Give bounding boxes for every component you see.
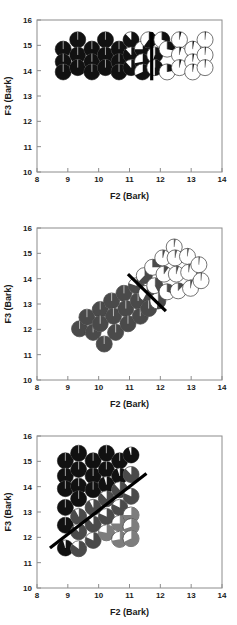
y-tick-label: 15 bbox=[23, 457, 32, 466]
x-tick-label: 12 bbox=[156, 175, 165, 184]
scatter-panel-2: 89101112131410111213141516F2 (Bark)F3 (B… bbox=[0, 208, 237, 416]
y-tick-label: 12 bbox=[23, 117, 32, 126]
x-tick-label: 11 bbox=[125, 175, 134, 184]
marker-layer bbox=[55, 32, 213, 80]
y-tick-label: 11 bbox=[24, 143, 33, 152]
x-tick-label: 13 bbox=[187, 383, 196, 392]
data-point-marker bbox=[96, 336, 112, 352]
data-point-marker bbox=[70, 60, 86, 76]
x-tick-label: 14 bbox=[218, 591, 227, 600]
data-point-marker bbox=[71, 445, 87, 461]
data-point-marker bbox=[123, 531, 139, 547]
y-axis-label: F3 (Bark) bbox=[3, 284, 13, 323]
x-tick-label: 8 bbox=[35, 175, 40, 184]
data-point-marker bbox=[71, 541, 87, 557]
data-point-marker bbox=[171, 32, 187, 48]
y-tick-label: 10 bbox=[23, 376, 32, 385]
marker-layer bbox=[72, 239, 210, 352]
y-tick-label: 16 bbox=[23, 432, 32, 441]
data-point-marker bbox=[193, 273, 209, 289]
x-tick-label: 13 bbox=[187, 591, 196, 600]
x-axis-label: F2 (Bark) bbox=[110, 191, 149, 201]
x-tick-label: 14 bbox=[218, 175, 227, 184]
y-tick-label: 13 bbox=[23, 300, 32, 309]
y-tick-label: 15 bbox=[23, 41, 32, 50]
x-tick-label: 14 bbox=[218, 383, 227, 392]
y-tick-label: 13 bbox=[23, 508, 32, 517]
data-point-marker bbox=[97, 32, 113, 48]
x-tick-label: 9 bbox=[66, 591, 71, 600]
y-tick-label: 10 bbox=[23, 584, 32, 593]
data-point-marker bbox=[55, 64, 71, 80]
data-point-marker bbox=[71, 461, 87, 477]
scatter-panel-1: 89101112131410111213141516F2 (Bark)F3 (B… bbox=[0, 0, 237, 208]
marker-layer bbox=[57, 445, 139, 557]
x-tick-label: 10 bbox=[94, 383, 103, 392]
scatter-panel-3: 89101112131410111213141516F2 (Bark)F3 (B… bbox=[0, 416, 237, 624]
y-tick-label: 14 bbox=[23, 483, 32, 492]
y-tick-label: 15 bbox=[23, 249, 32, 258]
data-point-marker bbox=[123, 447, 139, 463]
y-tick-label: 14 bbox=[23, 275, 32, 284]
x-tick-label: 11 bbox=[125, 383, 134, 392]
data-point-marker bbox=[70, 32, 86, 48]
x-tick-label: 9 bbox=[66, 175, 71, 184]
x-tick-label: 8 bbox=[35, 591, 40, 600]
y-axis-label: F3 (Bark) bbox=[3, 492, 13, 531]
data-point-marker bbox=[197, 32, 213, 48]
y-tick-label: 11 bbox=[24, 351, 33, 360]
y-tick-label: 12 bbox=[23, 533, 32, 542]
data-point-marker bbox=[71, 491, 87, 507]
x-tick-label: 8 bbox=[35, 383, 40, 392]
y-tick-label: 12 bbox=[23, 325, 32, 334]
figure-root: 89101112131410111213141516F2 (Bark)F3 (B… bbox=[0, 0, 237, 625]
y-tick-label: 16 bbox=[23, 224, 32, 233]
data-point-marker bbox=[197, 60, 213, 76]
y-tick-label: 10 bbox=[23, 168, 32, 177]
x-tick-label: 10 bbox=[94, 175, 103, 184]
y-tick-label: 16 bbox=[23, 16, 32, 25]
x-tick-label: 9 bbox=[66, 383, 71, 392]
x-tick-label: 12 bbox=[156, 383, 165, 392]
x-tick-label: 12 bbox=[156, 591, 165, 600]
x-tick-label: 11 bbox=[125, 591, 134, 600]
y-tick-label: 14 bbox=[23, 67, 32, 76]
x-axis-label: F2 (Bark) bbox=[110, 607, 149, 617]
y-tick-label: 13 bbox=[23, 92, 32, 101]
x-tick-label: 13 bbox=[187, 175, 196, 184]
x-axis-label: F2 (Bark) bbox=[110, 399, 149, 409]
data-point-marker bbox=[191, 257, 207, 273]
x-tick-label: 10 bbox=[94, 591, 103, 600]
y-tick-label: 11 bbox=[24, 559, 33, 568]
y-axis-label: F3 (Bark) bbox=[3, 76, 13, 115]
